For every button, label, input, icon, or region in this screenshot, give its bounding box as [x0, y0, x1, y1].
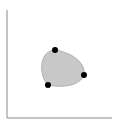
curved-shape	[42, 50, 85, 86]
control-point-bottom-left[interactable]	[45, 82, 51, 88]
control-point-right[interactable]	[81, 72, 87, 78]
diagram-canvas	[0, 0, 118, 126]
control-point-top[interactable]	[52, 47, 58, 53]
